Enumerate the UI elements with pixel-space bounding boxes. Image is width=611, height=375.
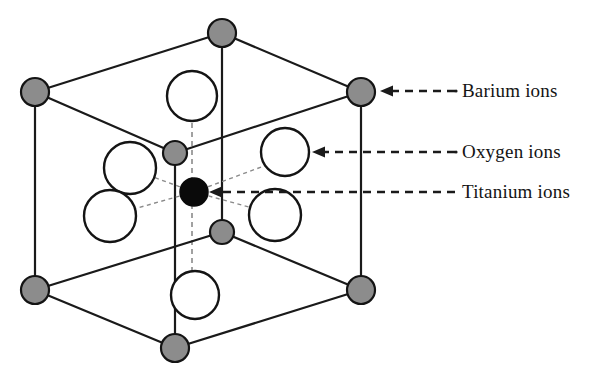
oxygen-ion-face-left-upper <box>104 142 156 194</box>
barium-ion-top-right-front <box>347 78 375 106</box>
titanium-ion-center <box>180 178 208 206</box>
callout-leader-barium <box>380 86 458 97</box>
oxygen-ion-face-right-upper <box>261 128 309 176</box>
cube-edge-midlow-to-bottom-right <box>222 232 361 290</box>
oxygen-ion-face-bottom <box>171 271 219 319</box>
oxygen-ion-face-right-lower <box>249 189 301 241</box>
callout-label-titanium: Titanium ions <box>462 182 570 201</box>
cube-edge-top-left-to-mid <box>35 92 175 153</box>
barium-ion-top-left-front <box>21 78 49 106</box>
leader-arrowhead-barium <box>380 86 393 97</box>
crystal-structure-figure: Barium ions Oxygen ions Titanium ions <box>0 0 611 375</box>
leader-arrowhead-oxygen <box>312 147 325 158</box>
barium-ion-bottom-front <box>161 334 189 362</box>
cube-edge-top-back-to-top-right <box>222 33 361 92</box>
callout-label-barium: Barium ions <box>462 81 558 100</box>
callout-label-oxygen: Oxygen ions <box>462 142 561 161</box>
oxygen-ion-face-top <box>167 71 217 121</box>
oxygen-ion-face-left-lower <box>84 190 136 242</box>
barium-ion-bottom-left-front <box>21 276 49 304</box>
barium-ion-mid-lower <box>210 220 234 244</box>
barium-ion-top-back <box>208 19 236 47</box>
leader-enddot-barium <box>454 89 457 92</box>
cube-edge-bottom-left-to-front <box>35 290 175 348</box>
callout-leader-titanium <box>209 186 455 198</box>
leader-enddot-oxygen <box>454 150 457 153</box>
barium-ion-mid-upper <box>163 141 187 165</box>
barium-ion-bottom-right-front <box>347 276 375 304</box>
callout-leader-oxygen <box>312 147 458 158</box>
